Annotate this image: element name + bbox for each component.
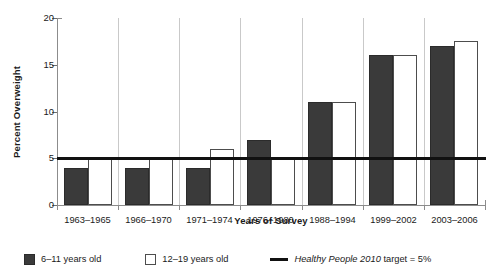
x-axis-tick-mark <box>240 205 241 210</box>
y-axis-tick-label: 20 <box>43 11 54 24</box>
bar <box>369 55 393 205</box>
bar <box>64 168 88 205</box>
x-axis-tick-mark <box>118 205 119 210</box>
reference-line-healthy-people-target <box>57 157 486 160</box>
legend-item-healthy-people-target: Healthy People 2010 target = 5% <box>270 254 431 264</box>
x-axis-tick-mark <box>57 205 58 210</box>
group-separator-line <box>240 18 241 205</box>
line-swatch-icon <box>270 258 288 261</box>
x-axis-title: Years of Survey <box>57 215 485 226</box>
y-axis-tick: 20 <box>57 18 58 19</box>
bar <box>271 158 295 205</box>
legend-label-12-19-years-old: 12–19 years old <box>162 254 228 264</box>
bar <box>186 168 210 205</box>
bar-chart-figure: Percent Overweight 05101520 1963–1965196… <box>0 0 495 274</box>
x-axis-line <box>57 205 486 206</box>
bar <box>332 102 356 205</box>
legend-item-12-19-years-old: 12–19 years old <box>145 254 228 265</box>
bar <box>393 55 417 205</box>
legend-label-italic-part: Healthy People 2010 <box>294 254 380 264</box>
legend-label-plain-part: target = 5% <box>381 254 431 264</box>
y-axis-tick-label: 15 <box>43 58 54 71</box>
bar <box>125 168 149 205</box>
y-axis-tick-label: 0 <box>49 198 54 211</box>
plot-area: 05101520 1963–19651966–19701971–19741976… <box>57 18 485 205</box>
legend-label-6-11-years-old: 6–11 years old <box>41 254 101 264</box>
x-axis-tick-mark <box>424 205 425 210</box>
bar <box>149 158 173 205</box>
y-axis-tick: 10 <box>57 112 58 113</box>
x-axis-tick-mark <box>363 205 364 210</box>
bar <box>88 158 112 205</box>
legend-item-6-11-years-old: 6–11 years old <box>24 254 101 265</box>
y-axis-tick-label: 5 <box>49 151 54 164</box>
x-axis-tick-mark <box>179 205 180 210</box>
y-axis-tick: 15 <box>57 65 58 66</box>
group-separator-line <box>363 18 364 205</box>
group-separator-line <box>118 18 119 205</box>
chart-legend: 6–11 years old 12–19 years old Healthy P… <box>24 250 484 268</box>
filled-square-swatch-icon <box>24 254 35 265</box>
legend-label-healthy-people-target: Healthy People 2010 target = 5% <box>294 254 431 264</box>
bar <box>454 41 478 205</box>
bar <box>430 46 454 205</box>
y-axis-title: Percent Overweight <box>8 18 24 205</box>
bar <box>247 140 271 205</box>
y-axis-tick-label: 10 <box>43 105 54 118</box>
group-separator-line <box>179 18 180 205</box>
group-separator-line <box>302 18 303 205</box>
group-separator-line <box>424 18 425 205</box>
x-axis-tick-mark <box>302 205 303 210</box>
bar <box>308 102 332 205</box>
open-square-swatch-icon <box>145 254 156 265</box>
y-axis-title-text: Percent Overweight <box>11 66 22 158</box>
x-axis-tick-mark <box>485 205 486 210</box>
